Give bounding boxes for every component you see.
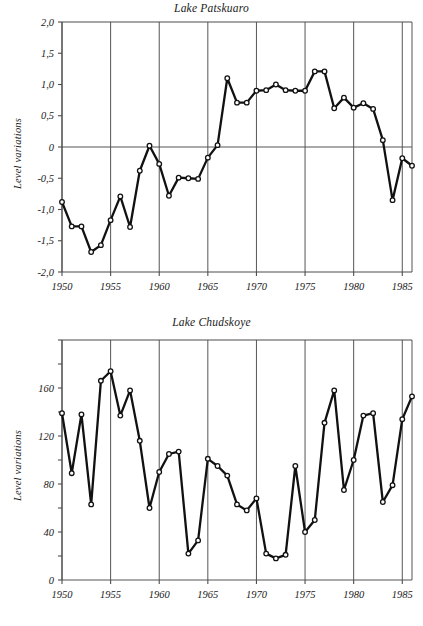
data-point-1983 — [381, 500, 386, 505]
data-point-1960 — [157, 470, 162, 475]
data-point-1984 — [390, 198, 395, 203]
data-point-1977 — [322, 421, 327, 426]
data-point-1965 — [206, 155, 211, 160]
y-tick-label--2: -2,0 — [37, 267, 54, 278]
y-tick-label-1: 1,0 — [41, 79, 55, 90]
data-point-1966 — [215, 464, 220, 469]
data-point-1954 — [99, 379, 104, 384]
chart-panel-lake-patskuaro: Lake Patskuaro Level variations -2,0-1,5… — [0, 0, 423, 312]
data-point-1966 — [215, 143, 220, 148]
data-point-1958 — [137, 439, 142, 444]
data-point-1972 — [274, 82, 279, 87]
data-point-1979 — [342, 95, 347, 100]
data-point-1959 — [147, 506, 152, 511]
data-point-1983 — [381, 138, 386, 143]
y-tick-label-40: 40 — [44, 527, 55, 538]
data-point-1980 — [351, 105, 356, 110]
data-point-1961 — [167, 452, 172, 457]
x-tick-label-1955: 1955 — [100, 589, 121, 600]
data-point-1971 — [264, 88, 269, 93]
data-point-1970 — [254, 496, 259, 501]
data-point-1951 — [69, 471, 74, 476]
y-tick-label--0.5: -0,5 — [37, 173, 54, 184]
data-point-1958 — [137, 168, 142, 173]
data-point-1964 — [196, 538, 201, 543]
data-point-1963 — [186, 551, 191, 556]
data-series-line — [62, 71, 412, 252]
data-point-1984 — [390, 483, 395, 488]
data-point-1977 — [322, 69, 327, 74]
data-point-1959 — [147, 143, 152, 148]
x-tick-label-1965: 1965 — [197, 281, 218, 292]
x-tick-label-1970: 1970 — [246, 281, 268, 292]
y-tick-label-0: 0 — [49, 575, 55, 586]
data-point-1956 — [118, 413, 123, 418]
data-point-1972 — [274, 556, 279, 561]
chart-svg-bottom: 0408012016019501955196019651970197519801… — [0, 312, 423, 626]
data-point-1964 — [196, 177, 201, 182]
y-tick-label-2: 2,0 — [41, 17, 55, 28]
data-point-1950 — [60, 200, 65, 205]
data-point-1975 — [303, 88, 308, 93]
x-tick-label-1980: 1980 — [343, 281, 365, 292]
data-point-1974 — [293, 464, 298, 469]
data-point-1957 — [128, 388, 133, 393]
data-point-1973 — [283, 88, 288, 93]
y-tick-label-0.5: 0,5 — [41, 110, 54, 121]
data-point-1986 — [410, 394, 415, 399]
data-point-1968 — [235, 100, 240, 105]
data-point-1967 — [225, 76, 230, 81]
y-tick-label--1: -1,0 — [37, 204, 54, 215]
y-tick-label--1.5: -1,5 — [37, 235, 54, 246]
data-point-1967 — [225, 473, 230, 478]
data-point-1953 — [89, 502, 94, 507]
x-tick-label-1975: 1975 — [295, 281, 316, 292]
y-tick-label-0: 0 — [49, 142, 55, 153]
data-point-1976 — [312, 518, 317, 523]
data-point-1961 — [167, 193, 172, 198]
data-point-1956 — [118, 194, 123, 199]
data-point-1980 — [351, 458, 356, 463]
data-point-1969 — [244, 100, 249, 105]
chart-svg-top: -2,0-1,5-1,0-0,500,51,01,52,019501955196… — [0, 0, 423, 312]
chart-panel-lake-chudskoye: Lake Chudskoye Level variations 04080120… — [0, 312, 423, 626]
x-tick-label-1980: 1980 — [343, 589, 365, 600]
data-point-1985 — [400, 156, 405, 161]
data-point-1952 — [79, 412, 84, 417]
x-tick-label-1985: 1985 — [392, 589, 413, 600]
data-point-1969 — [244, 508, 249, 513]
data-point-1962 — [176, 449, 181, 454]
x-tick-label-1975: 1975 — [295, 589, 316, 600]
data-point-1978 — [332, 388, 337, 393]
data-point-1950 — [60, 411, 65, 416]
data-point-1970 — [254, 88, 259, 93]
data-point-1955 — [108, 218, 113, 223]
data-point-1962 — [176, 175, 181, 180]
data-point-1976 — [312, 69, 317, 74]
x-tick-label-1960: 1960 — [149, 281, 171, 292]
x-tick-label-1950: 1950 — [52, 589, 74, 600]
data-point-1986 — [410, 163, 415, 168]
x-tick-label-1965: 1965 — [197, 589, 218, 600]
x-tick-label-1970: 1970 — [246, 589, 268, 600]
data-point-1981 — [361, 101, 366, 106]
data-point-1985 — [400, 417, 405, 422]
data-point-1960 — [157, 162, 162, 167]
data-point-1975 — [303, 530, 308, 535]
data-point-1981 — [361, 413, 366, 418]
data-point-1955 — [108, 369, 113, 374]
x-tick-label-1985: 1985 — [392, 281, 413, 292]
y-tick-label-1.5: 1,5 — [41, 48, 54, 59]
data-point-1973 — [283, 553, 288, 558]
data-point-1963 — [186, 176, 191, 181]
data-point-1952 — [79, 224, 84, 229]
y-tick-label-160: 160 — [38, 383, 55, 394]
x-tick-label-1950: 1950 — [52, 281, 74, 292]
x-tick-label-1960: 1960 — [149, 589, 171, 600]
data-point-1982 — [371, 411, 376, 416]
y-tick-label-120: 120 — [38, 431, 55, 442]
data-point-1951 — [69, 224, 74, 229]
data-series-line — [62, 371, 412, 558]
data-point-1979 — [342, 488, 347, 493]
data-point-1974 — [293, 88, 298, 93]
